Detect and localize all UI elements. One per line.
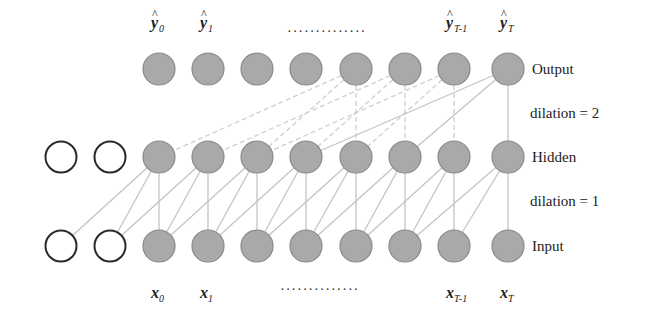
- svg-text:T-1: T-1: [454, 293, 467, 304]
- hidden-node-2: [241, 141, 273, 173]
- output-node-5: [389, 53, 421, 85]
- svg-text:0: 0: [159, 293, 164, 304]
- hat-accent: ^: [447, 7, 453, 21]
- output-node-6: [438, 53, 470, 85]
- dilation-label-0: dilation = 2: [530, 105, 599, 121]
- svg-text:1: 1: [208, 293, 213, 304]
- input-node-1: [192, 230, 224, 262]
- padding-node-input-1: [95, 231, 126, 262]
- input-label-1: x1: [199, 284, 213, 304]
- padding-node-hidden-0: [46, 142, 77, 173]
- hidden-node-3: [290, 141, 322, 173]
- hidden-node-1: [192, 141, 224, 173]
- input-label-T-1: xT-1: [445, 284, 467, 304]
- svg-text:T: T: [508, 293, 515, 304]
- tcn-diagram: OutputHiddenInputdilation = 2dilation = …: [0, 0, 653, 324]
- output-ellipsis: ··············: [287, 24, 366, 39]
- hidden-node-7: [492, 141, 524, 173]
- dilation-label-1: dilation = 1: [530, 193, 599, 209]
- input-node-3: [290, 230, 322, 262]
- input-node-7: [492, 230, 524, 262]
- output-node-3: [290, 53, 322, 85]
- output-label-0: y0^: [149, 7, 164, 34]
- output-node-4: [340, 53, 372, 85]
- svg-text:1: 1: [208, 23, 213, 34]
- input-node-0: [143, 230, 175, 262]
- output-node-0: [143, 53, 175, 85]
- svg-text:x: x: [150, 284, 159, 301]
- hat-accent: ^: [201, 7, 207, 21]
- svg-text:0: 0: [159, 23, 164, 34]
- output-node-1: [192, 53, 224, 85]
- hidden-node-0: [143, 141, 175, 173]
- input-label-0: x0: [150, 284, 164, 304]
- padding-node-hidden-1: [95, 142, 126, 173]
- hidden-node-5: [389, 141, 421, 173]
- padding-node-input-0: [46, 231, 77, 262]
- layer-label-hidden: Hidden: [532, 149, 577, 165]
- hidden-node-4: [340, 141, 372, 173]
- input-label-T: xT: [499, 284, 515, 304]
- layer-label-input: Input: [532, 238, 564, 254]
- input-node-2: [241, 230, 273, 262]
- svg-text:x: x: [445, 284, 454, 301]
- hat-accent: ^: [501, 7, 507, 21]
- output-node-2: [241, 53, 273, 85]
- svg-text:x: x: [499, 284, 508, 301]
- svg-text:x: x: [199, 284, 208, 301]
- output-label-T-1: yT-1^: [444, 7, 467, 34]
- svg-text:T-1: T-1: [454, 23, 467, 34]
- layer-label-output: Output: [532, 61, 575, 77]
- input-ellipsis: ··············: [280, 282, 359, 297]
- hat-accent: ^: [152, 7, 158, 21]
- input-node-5: [389, 230, 421, 262]
- hidden-node-6: [438, 141, 470, 173]
- svg-text:T: T: [508, 23, 515, 34]
- output-node-7: [492, 53, 524, 85]
- nodes-group: [46, 53, 525, 262]
- input-node-6: [438, 230, 470, 262]
- input-node-4: [340, 230, 372, 262]
- output-label-1: y1^: [198, 7, 213, 34]
- output-label-T: yT^: [498, 7, 515, 34]
